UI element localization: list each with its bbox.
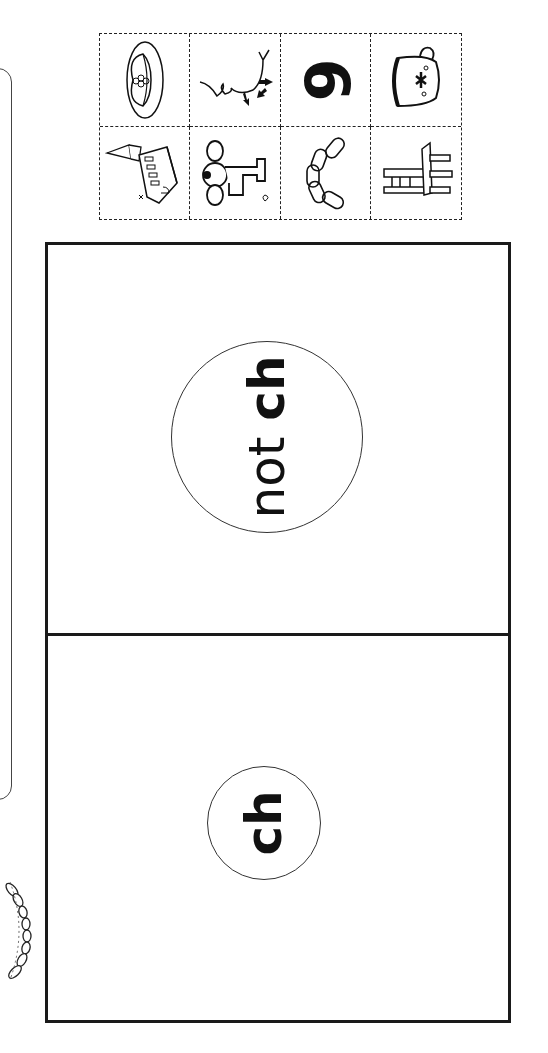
card-church[interactable] xyxy=(100,127,190,220)
ch-label: ch xyxy=(239,790,289,855)
tap-icon xyxy=(195,133,275,213)
six-icon: 6 xyxy=(294,58,356,101)
card-chain[interactable] xyxy=(281,127,371,220)
picture-card-grid: 6 xyxy=(99,33,462,220)
chair-icon xyxy=(376,133,456,213)
ch-label-circle: ch xyxy=(207,766,321,880)
hat-icon xyxy=(105,40,185,120)
flower-decoration-icon xyxy=(0,870,40,990)
card-hat[interactable] xyxy=(100,34,190,127)
chin-icon xyxy=(195,40,275,120)
chain-icon xyxy=(285,133,365,213)
instruction-panel xyxy=(0,68,12,800)
church-icon xyxy=(105,133,185,213)
card-chair[interactable] xyxy=(371,127,461,220)
not-ch-label: not ch xyxy=(242,355,292,518)
column-divider xyxy=(48,633,508,636)
card-chin[interactable] xyxy=(190,34,280,127)
card-teacup[interactable] xyxy=(371,34,461,127)
not-ch-label-circle: not ch xyxy=(171,341,363,533)
sorting-board: not ch ch xyxy=(45,242,511,1023)
card-tap[interactable] xyxy=(190,127,280,220)
card-six[interactable]: 6 xyxy=(281,34,371,127)
teacup-icon xyxy=(376,40,456,120)
